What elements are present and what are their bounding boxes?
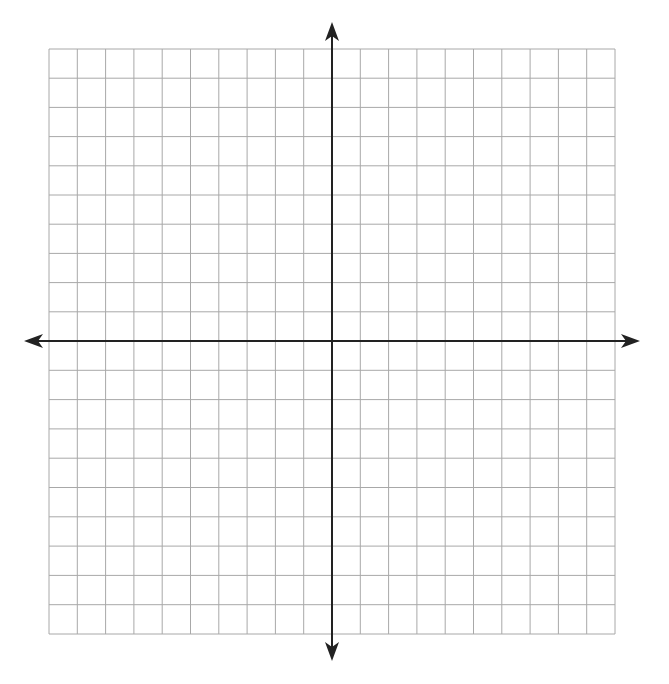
axes	[24, 22, 640, 661]
coordinate-plane	[0, 0, 669, 684]
